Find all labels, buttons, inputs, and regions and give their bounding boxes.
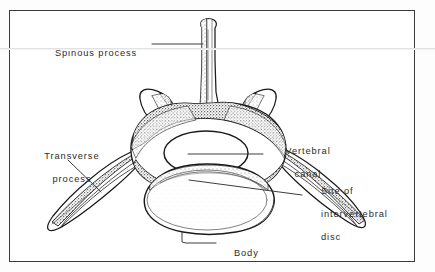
label-vertebral-canal-line-1: Vertebral [285, 146, 330, 156]
label-transverse-process: Transverse process [19, 140, 111, 197]
label-intervertebral-disc-line-3: disc [321, 232, 341, 242]
label-intervertebral-disc-line-2: intervertebral [321, 209, 388, 219]
label-spinous-process: Spinous process [41, 37, 137, 71]
figure-screen: Spinous process Transverse process Verte… [0, 0, 435, 272]
label-intervertebral-disc-line-1: Site of [321, 186, 354, 196]
label-transverse-process-line-2: process [53, 174, 92, 184]
spinous-process-shape [198, 18, 219, 110]
label-body: Body [220, 237, 259, 271]
label-intervertebral-disc: Site of intervertebral disc [307, 175, 388, 255]
label-transverse-process-line-1: Transverse [44, 151, 99, 161]
label-spinous-process-line-1: Spinous process [55, 48, 137, 58]
label-body-line-1: Body [234, 248, 259, 258]
